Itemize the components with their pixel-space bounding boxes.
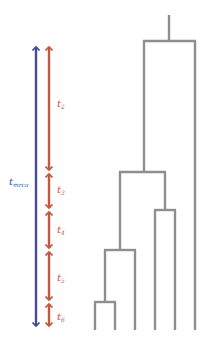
coalescent-diagram <box>0 0 209 346</box>
tmrca-label: tmrca <box>9 177 29 190</box>
t6-label: t6 <box>57 312 65 325</box>
t5-label: t5 <box>57 273 65 286</box>
genealogy-tree <box>94 15 196 330</box>
t4-label: t4 <box>57 225 65 238</box>
t3-label: t3 <box>57 185 65 198</box>
t2-label: t2 <box>57 99 65 112</box>
